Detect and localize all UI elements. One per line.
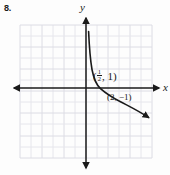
fraction-one-half: 12 <box>97 69 102 84</box>
y-axis-label: y <box>80 1 85 13</box>
paren-rest: , 1) <box>102 70 117 82</box>
fraction-denominator: 2 <box>97 75 102 83</box>
math-figure: 8. <box>0 0 170 175</box>
fraction-numerator: 1 <box>97 69 102 76</box>
point-label-two-negative-one: (2, −1) <box>107 92 132 102</box>
point-label-half-one: (12, 1) <box>93 69 117 84</box>
coordinate-plane <box>0 0 170 175</box>
x-axis-label: x <box>163 81 168 93</box>
